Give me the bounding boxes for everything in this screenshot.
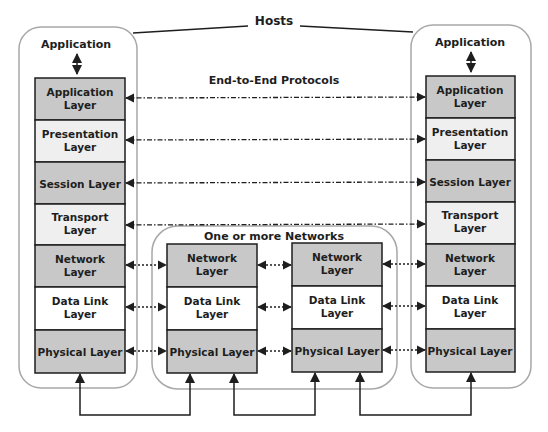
left-stack: Application Layer Presentation Layer Ses… — [35, 78, 125, 373]
svg-text:Layer: Layer — [64, 141, 97, 153]
svg-text:Layer: Layer — [64, 99, 97, 111]
svg-text:Layer: Layer — [196, 308, 229, 320]
svg-text:Layer: Layer — [454, 139, 487, 151]
svg-text:Data Link: Data Link — [184, 295, 241, 307]
svg-text:Layer: Layer — [454, 222, 487, 234]
osi-diagram: Hosts Application Application End-to-End… — [0, 0, 548, 432]
svg-text:Data Link: Data Link — [309, 294, 366, 306]
physical-links — [80, 373, 471, 415]
svg-text:Application: Application — [437, 84, 504, 96]
svg-text:Transport: Transport — [52, 211, 109, 223]
svg-text:Data Link: Data Link — [52, 295, 109, 307]
hosts-title: Hosts — [255, 14, 293, 28]
hosts-pointer-right — [300, 26, 413, 32]
svg-text:Layer: Layer — [321, 307, 354, 319]
svg-text:Physical Layer: Physical Layer — [169, 346, 255, 358]
svg-text:Application: Application — [47, 86, 114, 98]
svg-text:Session Layer: Session Layer — [429, 176, 512, 188]
svg-text:Layer: Layer — [196, 265, 229, 277]
svg-text:Physical Layer: Physical Layer — [37, 346, 123, 358]
svg-text:Data Link: Data Link — [442, 294, 499, 306]
svg-text:Session Layer: Session Layer — [39, 178, 122, 190]
svg-text:Network: Network — [312, 251, 363, 263]
svg-text:Layer: Layer — [64, 224, 97, 236]
svg-text:Layer: Layer — [454, 307, 487, 319]
router1-stack: Network Layer Data Link Layer Physical L… — [167, 244, 257, 373]
router2-stack: Network Layer Data Link Layer Physical L… — [292, 243, 382, 372]
hosts-pointer-left — [133, 26, 248, 33]
svg-text:Network: Network — [187, 252, 238, 264]
svg-text:Network: Network — [55, 253, 106, 265]
right-stack: Application Layer Presentation Layer Ses… — [426, 76, 515, 372]
svg-text:Presentation: Presentation — [42, 128, 118, 140]
networks-label: One or more Networks — [204, 230, 344, 243]
end-to-end-arrows — [126, 97, 425, 225]
right-application-label: Application — [435, 36, 505, 49]
svg-text:Layer: Layer — [454, 97, 487, 109]
svg-text:Presentation: Presentation — [432, 126, 508, 138]
svg-text:Physical Layer: Physical Layer — [427, 345, 513, 357]
left-application-label: Application — [41, 38, 111, 51]
svg-text:Layer: Layer — [64, 266, 97, 278]
svg-text:Transport: Transport — [442, 209, 499, 221]
svg-text:Physical Layer: Physical Layer — [294, 345, 380, 357]
svg-text:Network: Network — [445, 252, 496, 264]
end-to-end-label: End-to-End Protocols — [209, 74, 340, 87]
svg-text:Layer: Layer — [321, 264, 354, 276]
svg-text:Layer: Layer — [64, 308, 97, 320]
svg-text:Layer: Layer — [454, 265, 487, 277]
